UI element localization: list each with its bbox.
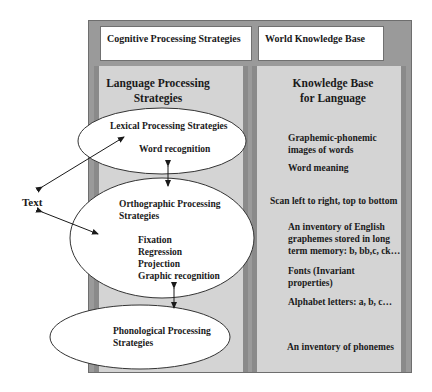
lexical-title: Lexical Processing Strategies bbox=[110, 120, 228, 132]
kb-item-fonts: Fonts (Invariant properties) bbox=[288, 265, 355, 289]
orthographic-items: Fixation Regression Projection Graphic r… bbox=[138, 234, 220, 282]
kb-item-word-meaning: Word meaning bbox=[288, 162, 348, 174]
kb-item-grapheme-inventory-line1: An inventory of English bbox=[288, 221, 400, 233]
lexical-ellipse bbox=[78, 108, 246, 174]
orthographic-item-graphic-recognition: Graphic recognition bbox=[138, 270, 220, 282]
kb-item-graphemic-phonemic-line1: Graphemic-phonemic bbox=[288, 132, 377, 144]
kb-item-grapheme-inventory: An inventory of English graphemes stored… bbox=[288, 221, 400, 257]
orthographic-title-line2: Strategies bbox=[119, 210, 220, 222]
kb-item-graphemic-phonemic: Graphemic-phonemic images of words bbox=[288, 132, 377, 156]
orthographic-item-projection: Projection bbox=[138, 258, 220, 270]
phonological-title: Phonological Processing Strategies bbox=[113, 325, 211, 349]
kb-item-scan: Scan left to right, top to bottom bbox=[270, 195, 397, 207]
kb-item-fonts-line1: Fonts (Invariant bbox=[288, 265, 355, 277]
orthographic-item-fixation: Fixation bbox=[138, 234, 220, 246]
orthographic-title: Orthographic Processing Strategies bbox=[119, 198, 220, 222]
phonological-title-line1: Phonological Processing bbox=[113, 325, 211, 337]
orthographic-item-regression: Regression bbox=[138, 246, 220, 258]
orthographic-title-line1: Orthographic Processing bbox=[119, 198, 220, 210]
kb-item-phonemes: An inventory of phonemes bbox=[287, 341, 394, 353]
phonological-title-line2: Strategies bbox=[113, 337, 211, 349]
kb-item-grapheme-inventory-line2: graphemes stored in long bbox=[288, 233, 400, 245]
kb-item-alphabet: Alphabet letters: a, b, c… bbox=[288, 296, 392, 308]
kb-item-fonts-line2: properties) bbox=[288, 277, 355, 289]
lexical-item-word-recognition: Word recognition bbox=[139, 143, 210, 155]
kb-item-graphemic-phonemic-line2: images of words bbox=[288, 144, 377, 156]
kb-item-grapheme-inventory-line3: term memory: b, bb,c, ck… bbox=[288, 245, 400, 257]
text-label: Text bbox=[22, 196, 42, 208]
